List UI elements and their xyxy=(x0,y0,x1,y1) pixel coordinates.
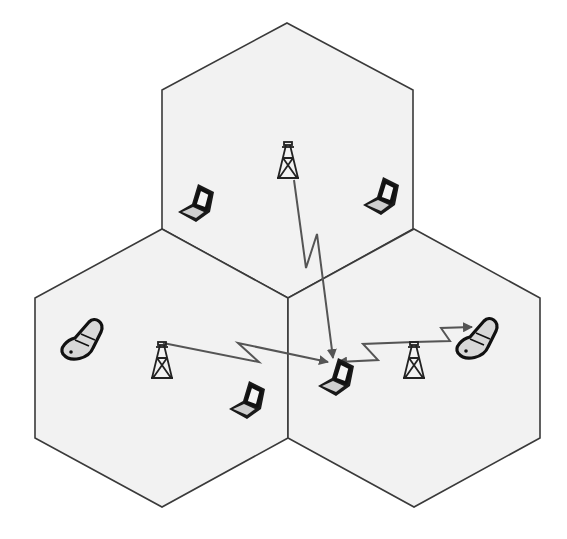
cellular-network-diagram xyxy=(0,0,567,539)
diagram-canvas xyxy=(0,0,567,539)
cells-layer xyxy=(35,23,540,507)
